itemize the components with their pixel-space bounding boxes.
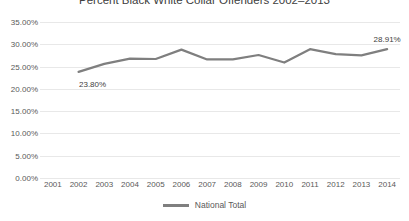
x-axis-tick-label: 2005 — [147, 180, 165, 189]
x-axis-tick-label: 2011 — [301, 180, 318, 189]
x-axis-tick-label: 2007 — [198, 180, 216, 189]
x-axis-tick-label: 2009 — [250, 180, 268, 189]
legend-line-swatch — [163, 204, 189, 207]
x-axis-tick-label: 2001 — [44, 180, 62, 189]
data-point-label: 23.80% — [79, 80, 106, 89]
series-line-national-total — [79, 49, 388, 72]
legend-item-label: National Total — [195, 200, 246, 210]
x-axis-tick-label: 2008 — [224, 180, 242, 189]
x-axis-tick-label: 2006 — [173, 180, 191, 189]
x-axis-tick-label: 2003 — [95, 180, 113, 189]
data-point-label: 28.91% — [374, 35, 401, 44]
x-axis-tick-label: 2014 — [378, 180, 396, 189]
x-axis-tick-label: 2013 — [353, 180, 371, 189]
chart-legend: National Total — [0, 200, 409, 210]
line-chart: Percent Black White Collar Offenders 200… — [0, 0, 409, 221]
x-axis-tick-label: 2012 — [327, 180, 345, 189]
x-axis-tick-label: 2002 — [70, 180, 88, 189]
x-axis-tick-label: 2004 — [121, 180, 139, 189]
x-axis-tick-label: 2010 — [275, 180, 293, 189]
x-axis-labels: 2001200220032004200520062007200820092010… — [40, 180, 400, 194]
